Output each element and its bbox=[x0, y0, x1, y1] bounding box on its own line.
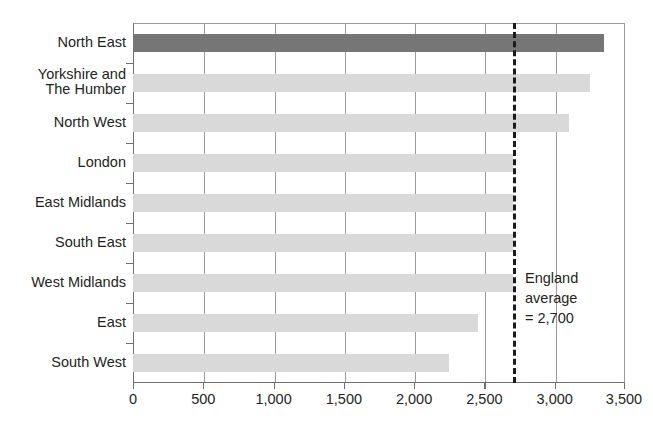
x-tick bbox=[274, 383, 275, 389]
y-tick bbox=[126, 183, 133, 184]
bar-east[interactable] bbox=[133, 314, 478, 332]
bar-yorkshire-and-the-humber[interactable] bbox=[133, 74, 590, 92]
x-tick bbox=[344, 383, 345, 389]
y-label-south-west: South West bbox=[0, 355, 126, 370]
x-tick-label-1500: 1,500 bbox=[326, 391, 362, 408]
bar-chart: North East Yorkshire and The Humber Nort… bbox=[0, 0, 653, 432]
x-axis: 0 500 1,000 1,500 2,000 2,500 3,000 3,50… bbox=[133, 383, 625, 423]
bar-row bbox=[133, 103, 625, 143]
y-label-north-east: North East bbox=[0, 35, 126, 50]
bar-row bbox=[133, 63, 625, 103]
england-average-reference-line bbox=[513, 23, 516, 383]
x-tick-label-0: 0 bbox=[129, 391, 137, 408]
bars-layer bbox=[133, 23, 625, 383]
x-tick-label-1000: 1,000 bbox=[255, 391, 291, 408]
bar-south-west[interactable] bbox=[133, 354, 449, 372]
x-tick bbox=[624, 383, 625, 389]
bar-london[interactable] bbox=[133, 154, 513, 172]
x-tick-label-2000: 2,000 bbox=[396, 391, 432, 408]
y-tick bbox=[126, 263, 133, 264]
bar-south-east[interactable] bbox=[133, 234, 513, 252]
y-tick bbox=[126, 103, 133, 104]
x-tick bbox=[133, 383, 134, 389]
x-tick-label-3500: 3,500 bbox=[606, 391, 642, 408]
england-average-label: England average = 2,700 bbox=[525, 268, 578, 328]
x-tick-label-2500: 2,500 bbox=[466, 391, 502, 408]
bar-row bbox=[133, 343, 625, 383]
bar-row bbox=[133, 143, 625, 183]
y-tick bbox=[126, 303, 133, 304]
x-tick-label-500: 500 bbox=[191, 391, 215, 408]
x-tick bbox=[414, 383, 415, 389]
y-label-east-midlands: East Midlands bbox=[0, 195, 126, 210]
bar-north-west[interactable] bbox=[133, 114, 569, 132]
y-label-yorkshire-and-the-humber: Yorkshire and The Humber bbox=[0, 67, 126, 97]
y-label-south-east: South East bbox=[0, 235, 126, 250]
x-tick bbox=[484, 383, 485, 389]
bar-west-midlands[interactable] bbox=[133, 274, 513, 292]
y-label-east: East bbox=[0, 315, 126, 330]
y-tick bbox=[126, 343, 133, 344]
y-tick bbox=[126, 63, 133, 64]
x-tick bbox=[203, 383, 204, 389]
bar-north-east[interactable] bbox=[133, 34, 604, 52]
y-label-north-west: North West bbox=[0, 115, 126, 130]
bar-row bbox=[133, 183, 625, 223]
x-tick bbox=[555, 383, 556, 389]
y-label-london: London bbox=[0, 155, 126, 170]
y-tick bbox=[126, 143, 133, 144]
y-axis-labels: North East Yorkshire and The Humber Nort… bbox=[0, 23, 126, 383]
x-tick-label-3000: 3,000 bbox=[537, 391, 573, 408]
bar-east-midlands[interactable] bbox=[133, 194, 513, 212]
y-tick bbox=[126, 223, 133, 224]
bar-row bbox=[133, 23, 625, 63]
y-label-west-midlands: West Midlands bbox=[0, 275, 126, 290]
bar-row bbox=[133, 223, 625, 263]
